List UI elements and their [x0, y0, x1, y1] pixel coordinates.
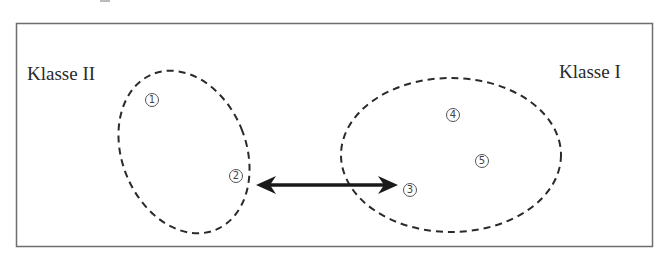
point-1: 1: [145, 93, 159, 107]
point-5: 5: [475, 154, 489, 168]
diagram-graphics: [0, 0, 668, 262]
diagram-canvas: Klasse II Klasse I 1 2 3 4 5: [0, 0, 668, 262]
point-2: 2: [229, 169, 243, 183]
label-klasse-ii: Klasse II: [27, 64, 95, 83]
cluster-ellipse-klasse-ii: [95, 51, 273, 253]
point-3: 3: [403, 183, 417, 197]
label-klasse-i: Klasse I: [559, 62, 621, 81]
point-4: 4: [446, 108, 460, 122]
distance-arrow: [256, 176, 398, 194]
cluster-ellipse-klasse-i: [341, 78, 561, 232]
top-artifact: [100, 0, 110, 2]
